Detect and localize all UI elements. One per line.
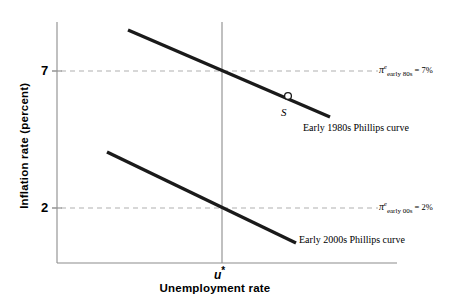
plot-area [0, 0, 455, 302]
y-axis-title: Inflation rate (percent) [19, 61, 31, 231]
expected-inflation-value-2000s: = 2% [415, 202, 433, 212]
x-tick-label-natural-rate: u* [214, 266, 225, 281]
curve-early-2000s [107, 152, 296, 243]
point-s-label: S [281, 107, 287, 118]
y-tick-label-2: 2 [41, 201, 48, 214]
y-tick-label-7: 7 [41, 64, 48, 77]
expected-inflation-note-2000s: πeearly 00s = 2% [379, 201, 433, 215]
x-axis-title: Unemployment rate [115, 283, 315, 295]
x-tick-star-glyph: * [221, 265, 225, 276]
pi-subscript-2000s: early 00s [387, 207, 412, 215]
pi-subscript-1980s: early 80s [387, 70, 412, 78]
curve-label-early-1980s: Early 1980s Phillips curve [303, 123, 409, 133]
phillips-curve-chart: Inflation rate (percent) Unemployment ra… [0, 0, 455, 302]
expected-inflation-value-1980s: = 7% [415, 65, 433, 75]
curve-early-1980s [128, 30, 330, 117]
expected-inflation-note-1980s: πeearly 80s = 7% [379, 64, 433, 78]
curve-label-early-2000s: Early 2000s Phillips curve [299, 235, 405, 245]
point-s-marker [285, 93, 292, 100]
